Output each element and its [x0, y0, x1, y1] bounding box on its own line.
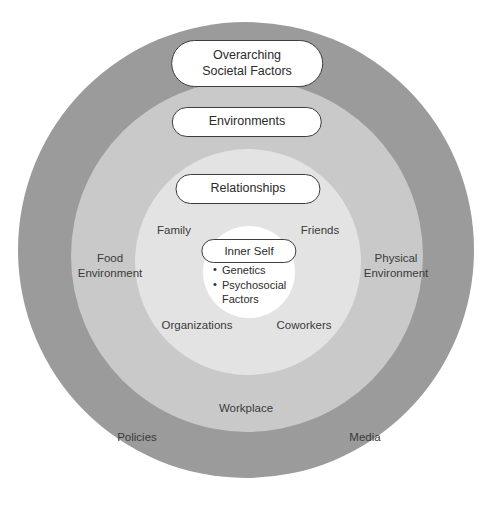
- pill-societal-line2: Societal Factors: [202, 64, 292, 80]
- label-coworkers: Coworkers: [277, 318, 332, 333]
- bullet-psychosocial-factors: Psychosocial Factors: [213, 278, 297, 307]
- label-physical-environment-line2: Environment: [364, 266, 429, 281]
- bullet-genetics: Genetics: [213, 263, 297, 278]
- pill-inner-self: Inner Self: [201, 239, 296, 263]
- label-policies: Policies: [117, 430, 157, 445]
- inner-self-bullet-list: Genetics Psychosocial Factors: [201, 263, 297, 307]
- label-media: Media: [349, 430, 380, 445]
- pill-environments: Environments: [172, 107, 322, 137]
- bullet-psychosocial-line1: Psychosocial: [222, 279, 286, 291]
- label-food-environment-line1: Food: [78, 251, 143, 266]
- pill-societal-line1: Overarching: [202, 48, 292, 64]
- label-physical-environment-line1: Physical: [364, 251, 429, 266]
- pill-relationships: Relationships: [175, 174, 320, 204]
- pill-overarching-societal-factors: Overarching Societal Factors: [171, 40, 323, 87]
- label-food-environment: Food Environment: [78, 251, 143, 281]
- label-family: Family: [157, 223, 191, 238]
- label-physical-environment: Physical Environment: [364, 251, 429, 281]
- socio-ecological-model-diagram: Policies Media Food Environment Physical…: [0, 0, 494, 519]
- bullet-psychosocial-line2: Factors: [222, 293, 259, 305]
- label-organizations: Organizations: [162, 318, 233, 333]
- label-friends: Friends: [301, 223, 339, 238]
- label-workplace: Workplace: [219, 401, 273, 416]
- label-food-environment-line2: Environment: [78, 266, 143, 281]
